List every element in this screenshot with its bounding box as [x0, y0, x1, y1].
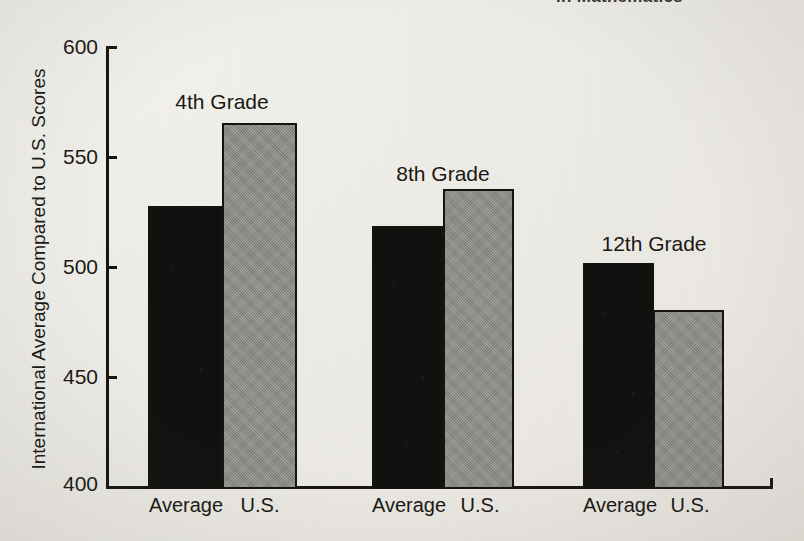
chart-page: in Mathematics 600 550 500 450 400 Inter… [0, 0, 804, 541]
bar-8th-grade-average [372, 226, 444, 489]
bar-label-12th-grade-average: Average [581, 494, 659, 517]
y-tick-600 [106, 46, 117, 49]
bar-4th-grade-us [222, 123, 297, 489]
bar-12th-grade-us [653, 310, 724, 489]
group-title-4th-grade: 4th Grade [148, 90, 296, 114]
bar-4th-grade-average [148, 206, 223, 489]
bar-label-8th-grade-average: Average [370, 494, 448, 517]
plot-area: 600 550 500 450 400 International Averag… [0, 0, 804, 541]
group-title-12th-grade: 12th Grade [578, 232, 730, 256]
y-tick-500 [106, 266, 117, 269]
bar-12th-grade-average [583, 263, 654, 489]
y-tick-550 [106, 156, 117, 159]
group-title-8th-grade: 8th Grade [372, 162, 514, 186]
bar-label-8th-grade-us: U.S. [443, 494, 517, 517]
bar-label-12th-grade-us: U.S. [653, 494, 727, 517]
x-axis-end-tick [770, 478, 773, 489]
y-axis-title: International Average Compared to U.S. S… [28, 34, 50, 504]
y-tick-450 [106, 376, 117, 379]
bar-8th-grade-us [443, 189, 514, 489]
bar-label-4th-grade-average: Average [146, 494, 226, 517]
bar-label-4th-grade-us: U.S. [222, 494, 298, 517]
